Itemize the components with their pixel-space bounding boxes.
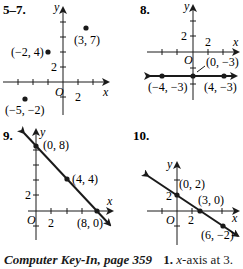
point-label: (3, 7) [74, 33, 100, 47]
x-axis-label: x [232, 35, 239, 49]
point-label: (4, 4) [72, 172, 98, 186]
y-tick-label: 2 [181, 29, 187, 43]
x-axis-label: x [231, 211, 238, 225]
graph-number: 8. [140, 2, 150, 17]
point-label: (0, 2) [179, 177, 205, 191]
graph-number: 10. [133, 128, 149, 143]
x-axis-label: x [102, 85, 109, 99]
x-tick-label: 2 [188, 213, 194, 227]
point-label: (−4, −3) [148, 80, 188, 94]
data-point [190, 73, 195, 78]
data-point [94, 208, 99, 213]
point-label: (3, 0) [198, 193, 224, 207]
graph-10: 10. x y O 2 2 (0, 2) (3, 0) (6, −2) [133, 128, 238, 245]
point-label: (4, −3) [204, 80, 237, 94]
section-title: Computer Key-In, page 359 [4, 252, 152, 267]
point-label: (−5, −2) [5, 103, 45, 117]
y-tick-label: 2 [25, 188, 31, 202]
origin-label: O [166, 213, 175, 227]
point-label: (−2, 4) [11, 45, 44, 59]
graph-9: 9. x y O 2 2 (0, 8) (4, 4) (8, 0) [3, 125, 113, 240]
x-tick-label: 2 [75, 90, 81, 104]
pointer-arrow [197, 66, 205, 72]
graphs-canvas: 5–7. x y O 2 2 (3, 7) (−2, 4) (−5, −2) 8… [0, 0, 243, 269]
data-point [197, 208, 202, 213]
data-point [83, 25, 88, 30]
point-label: (0, 8) [43, 138, 69, 152]
graph-5-7: 5–7. x y O 2 2 (3, 7) (−2, 4) (−5, −2) [3, 0, 109, 117]
point-label: (6, −2) [201, 228, 234, 242]
answer-footer: Computer Key-In, page 359 1. x-axis at 3… [4, 252, 233, 268]
y-axis-label: y [183, 0, 190, 13]
graph-number: 9. [3, 128, 13, 143]
origin-label: O [27, 213, 36, 227]
x-tick-label: 2 [48, 216, 54, 230]
data-point [159, 73, 164, 78]
y-tick-label: 2 [51, 60, 57, 74]
data-point [45, 49, 50, 54]
graph-number: 5–7. [3, 2, 26, 17]
data-point [33, 143, 38, 148]
data-point [22, 96, 27, 101]
point-label: (8, 0) [77, 216, 103, 230]
x-tick-label: 2 [205, 35, 211, 49]
data-point [64, 176, 69, 181]
y-axis-label: y [166, 157, 173, 171]
item-number: 1. [163, 252, 173, 267]
data-point [174, 192, 179, 197]
point-label: (0, −3) [206, 55, 239, 69]
y-axis-label: y [39, 125, 46, 139]
y-axis-label: y [53, 0, 60, 14]
x-axis-label: x [106, 194, 113, 208]
item-text: -axis at 3. [182, 252, 233, 267]
origin-label: O [55, 85, 64, 99]
origin-label: O [184, 53, 193, 67]
data-point [221, 73, 226, 78]
graph-8: 8. x y O 2 2 (0, −3) (−4, −3) (4, −3) [140, 0, 239, 100]
